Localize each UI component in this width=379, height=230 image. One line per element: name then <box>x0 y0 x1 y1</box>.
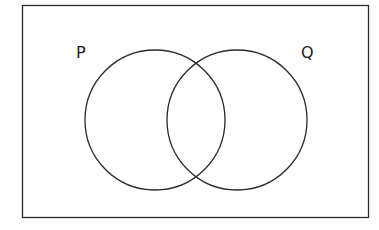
universal-set-rectangle <box>23 6 369 218</box>
set-q-circle <box>167 50 307 190</box>
venn-diagram: P Q <box>0 0 379 230</box>
set-q-label: Q <box>301 43 314 62</box>
set-p-label: P <box>76 43 86 62</box>
set-p-circle <box>85 50 225 190</box>
